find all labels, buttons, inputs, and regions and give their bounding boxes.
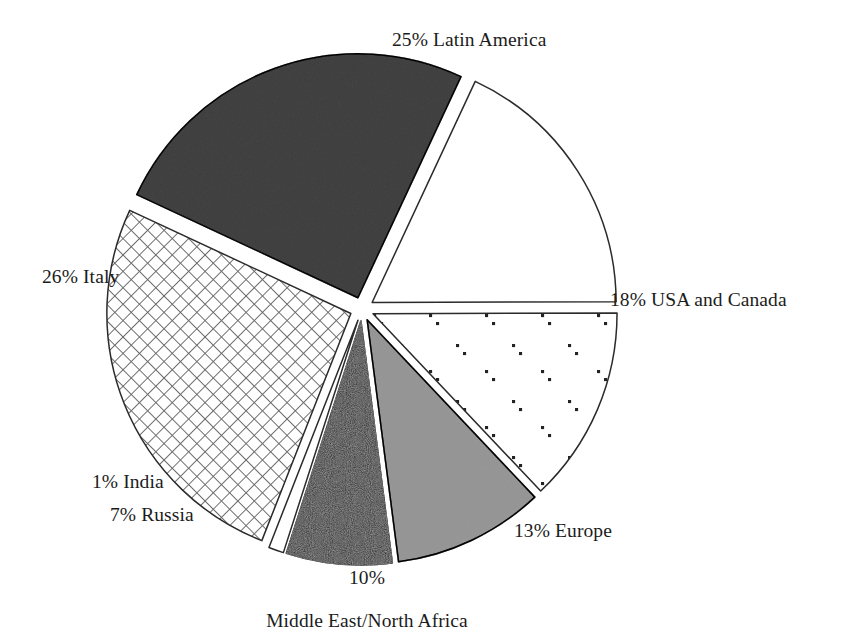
slice-label-latin-america: 25% Latin America	[392, 28, 546, 53]
slice-label-russia: 7% Russia	[110, 503, 194, 528]
slice-label-europe: 13% Europe	[514, 519, 612, 544]
pie-chart-canvas	[0, 0, 844, 643]
slice-label-mena-name: Middle East/North Africa	[224, 609, 510, 634]
slice-label-italy: 26% Italy	[42, 265, 119, 290]
slice-label-india: 1% India	[92, 470, 164, 495]
slice-label-mena-percent: 10%	[224, 566, 510, 591]
pie-chart-figure: 25% Latin America 18% USA and Canada 13%…	[0, 0, 844, 643]
slice-label-usa-canada: 18% USA and Canada	[610, 288, 787, 313]
slice-label-middle-east-north-africa: 10% Middle East/North Africa	[224, 566, 510, 634]
